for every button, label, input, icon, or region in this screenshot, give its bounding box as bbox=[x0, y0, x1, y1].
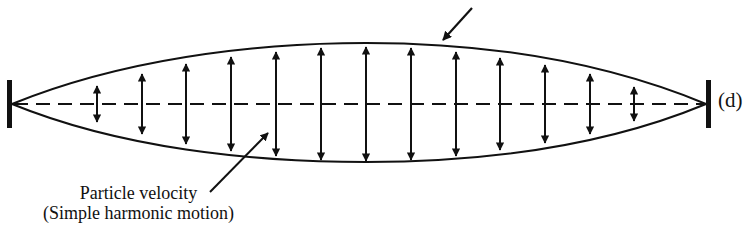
envelope-upper bbox=[12, 43, 706, 104]
left-fixed-end bbox=[7, 80, 12, 128]
annotation-line-1: Particle velocity bbox=[43, 183, 234, 203]
right-fixed-end bbox=[706, 80, 711, 128]
envelope-lower bbox=[12, 104, 706, 162]
envelope-pointer-arrow bbox=[443, 8, 472, 40]
part-label: (d) bbox=[718, 88, 743, 113]
particle-velocity-annotation: Particle velocity (Simple harmonic motio… bbox=[43, 183, 234, 223]
annotation-line-2: (Simple harmonic motion) bbox=[43, 203, 234, 223]
